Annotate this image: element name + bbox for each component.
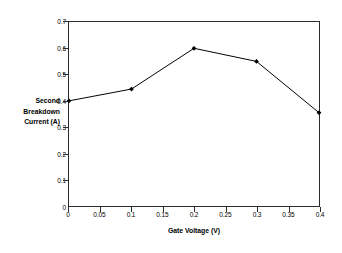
y-axis-tick-label: 0 [26, 204, 66, 211]
chart-container: Second Breakdown Current (A) 00.10.20.30… [0, 0, 342, 253]
x-axis-tick-mark [68, 207, 69, 212]
y-axis-tick-mark [63, 21, 68, 22]
series-line [69, 48, 319, 112]
x-axis-tick-mark [131, 207, 132, 212]
x-axis-tick-mark [194, 207, 195, 212]
x-axis-tick-mark [163, 207, 164, 212]
y-axis-tick-mark [63, 154, 68, 155]
y-axis-tick-label: 0.7 [26, 18, 66, 25]
x-axis-tick-mark [226, 207, 227, 212]
y-axis-tick-mark [63, 127, 68, 128]
x-axis-tick-mark [320, 207, 321, 212]
x-axis-tick-label: 0.4 [300, 211, 340, 218]
y-axis-tick-mark [63, 74, 68, 75]
plot-area [68, 21, 320, 207]
x-axis-title: Gate Voltage (V) [68, 227, 320, 234]
x-axis-tick-mark [100, 207, 101, 212]
y-axis-tick-label: 0.3 [26, 124, 66, 131]
y-axis-tick-mark [63, 180, 68, 181]
y-axis-tick-mark [63, 48, 68, 49]
data-series-line [69, 22, 319, 206]
y-axis-title-line-2: Breakdown [2, 107, 60, 118]
y-axis-tick-mark [63, 101, 68, 102]
y-axis-tick-label: 0.4 [26, 97, 66, 104]
y-axis-tick-label: 0.2 [26, 150, 66, 157]
y-axis-tick-label: 0.6 [26, 44, 66, 51]
y-axis-tick-label: 0.5 [26, 71, 66, 78]
y-axis-tick-label: 0.1 [26, 177, 66, 184]
x-axis-tick-mark [289, 207, 290, 212]
x-axis-tick-mark [257, 207, 258, 212]
